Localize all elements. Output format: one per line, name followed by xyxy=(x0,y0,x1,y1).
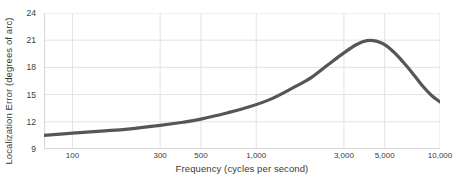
data-series-group xyxy=(44,40,440,135)
line-chart-svg xyxy=(44,13,440,149)
y-axis-tick-label: 24 xyxy=(22,8,36,18)
x-axis-tick-label: 500 xyxy=(194,151,207,160)
plot-area xyxy=(44,13,440,149)
chart-container: Localization Error (degrees of arc) Freq… xyxy=(0,0,453,182)
x-axis-tick-label: 300 xyxy=(153,151,166,160)
y-axis-tick-label: 9 xyxy=(22,144,36,154)
y-axis-title: Localization Error (degrees of arc) xyxy=(0,0,16,182)
y-axis-tick-label: 12 xyxy=(22,117,36,127)
x-axis-tick-label: 10,000 xyxy=(428,151,452,160)
axis-lines xyxy=(44,13,440,149)
y-axis-tick-label: 21 xyxy=(22,35,36,45)
x-axis-tick-label: 1,000 xyxy=(246,151,266,160)
x-axis-title: Frequency (cycles per second) xyxy=(44,163,440,174)
data-line-series-0 xyxy=(44,40,440,135)
x-axis-tick-label: 100 xyxy=(66,151,79,160)
y-axis-tick-label: 15 xyxy=(22,90,36,100)
y-axis-tick-label: 18 xyxy=(22,62,36,72)
grid-lines xyxy=(44,13,440,149)
x-axis-tick-label: 5,000 xyxy=(375,151,395,160)
x-axis-tick-label: 3,000 xyxy=(334,151,354,160)
